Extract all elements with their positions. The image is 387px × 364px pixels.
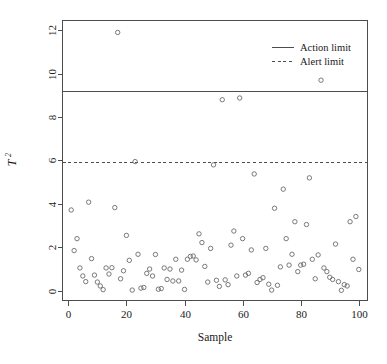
data-point	[229, 243, 233, 247]
data-point	[267, 282, 271, 286]
data-point	[275, 283, 279, 287]
data-point	[307, 176, 311, 180]
data-point	[296, 269, 300, 273]
data-point	[197, 232, 201, 236]
chart-canvas: 024681012 020406080100 T 2 Sample Action…	[0, 0, 387, 364]
data-point	[339, 288, 343, 292]
data-point	[235, 274, 239, 278]
data-point	[153, 252, 157, 256]
data-point	[136, 252, 140, 256]
data-point	[104, 266, 108, 270]
data-point	[325, 269, 329, 273]
data-point	[69, 208, 73, 212]
data-point	[142, 285, 146, 289]
data-point	[264, 246, 268, 250]
data-point	[310, 257, 314, 261]
data-point	[176, 279, 180, 283]
data-point	[191, 254, 195, 258]
data-point	[333, 242, 337, 246]
y-tick-label: 10	[46, 69, 58, 81]
y-axis-title: T 2	[4, 153, 19, 166]
legend-label-action-limit: Action limit	[300, 42, 351, 53]
data-point	[171, 279, 175, 283]
data-point	[298, 263, 302, 267]
x-tick-label: 40	[180, 308, 192, 320]
data-point	[217, 284, 221, 288]
data-point	[113, 205, 117, 209]
data-point	[168, 267, 172, 271]
data-point	[145, 271, 149, 275]
data-point	[179, 268, 183, 272]
data-point	[78, 266, 82, 270]
data-point-group	[69, 30, 361, 292]
x-axis: 020406080100	[66, 301, 369, 320]
data-point	[269, 288, 273, 292]
data-point	[118, 277, 122, 281]
data-point	[237, 96, 241, 100]
data-point	[208, 246, 212, 250]
data-point	[182, 287, 186, 291]
data-point	[75, 236, 79, 240]
y-axis-title-exponent: 2	[4, 153, 13, 157]
data-point	[115, 30, 119, 34]
y-tick-label: 12	[46, 25, 58, 36]
data-point	[133, 159, 137, 163]
data-point	[290, 252, 294, 256]
data-point	[319, 78, 323, 82]
data-point	[206, 280, 210, 284]
data-point	[211, 163, 215, 167]
x-tick-label: 100	[351, 308, 368, 320]
data-point	[159, 286, 163, 290]
x-tick-label: 20	[121, 308, 133, 320]
data-point	[84, 279, 88, 283]
data-point	[240, 236, 244, 240]
reference-lines	[63, 92, 368, 163]
data-point	[304, 222, 308, 226]
data-point	[348, 220, 352, 224]
data-point	[313, 277, 317, 281]
data-point	[162, 266, 166, 270]
data-point	[194, 258, 198, 262]
data-point	[301, 262, 305, 266]
data-point	[287, 263, 291, 267]
data-point	[200, 240, 204, 244]
data-point	[95, 280, 99, 284]
data-point	[121, 269, 125, 273]
data-point	[226, 282, 230, 286]
data-point	[316, 253, 320, 257]
x-tick-label: 80	[296, 308, 308, 320]
data-point	[130, 288, 134, 292]
x-tick-label: 60	[238, 308, 250, 320]
data-point	[89, 256, 93, 260]
data-point	[223, 278, 227, 282]
data-point	[214, 278, 218, 282]
data-point	[249, 248, 253, 252]
data-point	[127, 258, 131, 262]
data-point	[81, 274, 85, 278]
data-point	[232, 229, 236, 233]
y-tick-label: 4	[46, 201, 58, 207]
control-chart: 024681012 020406080100 T 2 Sample Action…	[0, 0, 387, 364]
data-point	[293, 220, 297, 224]
data-point	[72, 248, 76, 252]
data-point	[86, 200, 90, 204]
data-point	[220, 98, 224, 102]
data-point	[147, 267, 151, 271]
y-tick-label: 0	[46, 288, 58, 294]
data-point	[351, 257, 355, 261]
data-point	[107, 272, 111, 276]
y-tick-label: 6	[46, 157, 58, 163]
data-point	[165, 277, 169, 281]
data-point	[124, 233, 128, 237]
legend-label-alert-limit: Alert limit	[300, 56, 344, 67]
data-point	[357, 267, 361, 271]
data-point	[278, 265, 282, 269]
y-axis: 024681012	[46, 25, 62, 294]
y-axis-title-base: T	[5, 158, 19, 166]
data-point	[203, 264, 207, 268]
data-point	[150, 274, 154, 278]
y-tick-label: 2	[46, 245, 58, 251]
data-point	[174, 257, 178, 261]
data-point	[101, 287, 105, 291]
data-point	[272, 206, 276, 210]
